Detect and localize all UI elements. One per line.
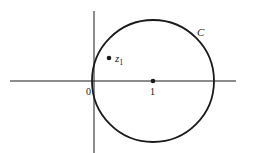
z1-label-subscript: 1 xyxy=(119,58,123,67)
z1-label: z1 xyxy=(114,52,123,67)
complex-plane-diagram: 0 1 C z1 xyxy=(0,0,260,153)
z1-point xyxy=(107,56,112,61)
origin-label: 0 xyxy=(86,86,91,97)
center-point xyxy=(151,79,156,84)
center-label: 1 xyxy=(150,86,155,97)
circle-label: C xyxy=(197,26,205,38)
